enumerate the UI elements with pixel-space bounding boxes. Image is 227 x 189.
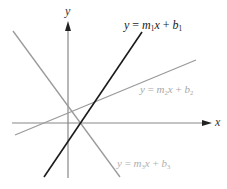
line-2-var: y bbox=[140, 83, 145, 95]
line-2-b-sub: 2 bbox=[190, 89, 193, 96]
y-axis-arrow-icon bbox=[65, 21, 71, 31]
line-3-b-sub: 3 bbox=[167, 163, 170, 170]
line-2-m: m bbox=[157, 83, 165, 95]
line-1-label: y = m1x + b1 bbox=[124, 19, 182, 33]
line-2-x: x bbox=[168, 83, 173, 95]
line-3-x: x bbox=[145, 157, 150, 169]
line-3-var: y bbox=[117, 157, 122, 169]
line-1-m: m bbox=[142, 18, 151, 32]
line-2-label: y = m2x + b2 bbox=[140, 84, 193, 96]
line-3-plus: + bbox=[153, 157, 159, 169]
line-3-m: m bbox=[134, 157, 142, 169]
line-1-eq: = bbox=[132, 18, 139, 32]
x-axis-arrow-icon bbox=[202, 120, 212, 126]
y-axis-label: y bbox=[65, 5, 70, 17]
line-3 bbox=[13, 31, 120, 177]
line-2-eq: = bbox=[148, 83, 154, 95]
line-1-var: y bbox=[124, 18, 129, 32]
line-1-b-sub: 1 bbox=[178, 25, 182, 33]
line-1 bbox=[44, 32, 142, 177]
line-2-plus: + bbox=[176, 83, 182, 95]
line-3-eq: = bbox=[125, 157, 131, 169]
line-1-x: x bbox=[154, 18, 159, 32]
line-1-plus: + bbox=[163, 18, 170, 32]
line-3-label: y = m3x + b3 bbox=[117, 158, 170, 170]
x-axis-label: x bbox=[215, 116, 220, 128]
